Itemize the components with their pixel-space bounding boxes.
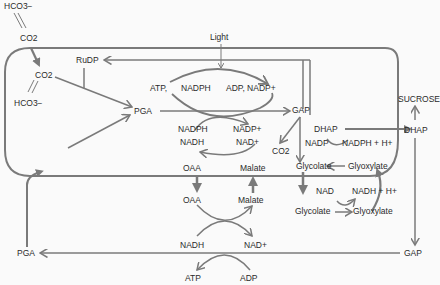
- label-malate-outer: Malate: [238, 196, 264, 205]
- label-gap-inner: GAP: [292, 106, 310, 115]
- label-nadh-mid: NADH: [180, 138, 204, 147]
- label-co2-outer: CO2: [20, 34, 37, 43]
- label-hco3-inner: HCO3−: [14, 99, 43, 108]
- label-atp-bottom: ATP: [185, 274, 201, 283]
- label-nad-mid: NAD+: [236, 138, 259, 147]
- label-glycolate-inner: Glycolate: [296, 162, 331, 171]
- label-nadp-mid: NADP+: [233, 125, 262, 134]
- label-adp-nadp-top: ADP, NADP+: [226, 84, 276, 93]
- label-pga-outer: PGA: [17, 249, 35, 258]
- label-rudp: RuDP: [76, 56, 99, 65]
- label-gap-outer: GAP: [404, 249, 422, 258]
- label-oaa-outer: OAA: [183, 196, 201, 205]
- label-nadph-top: NADPH: [181, 84, 211, 93]
- label-dhap-inner: DHAP: [314, 125, 338, 134]
- label-co2-inner: CO2: [35, 71, 52, 80]
- label-glyoxylate-inner: Glyoxylate: [348, 162, 388, 171]
- label-atp-top: ATP,: [150, 84, 167, 93]
- label-light: Light: [210, 33, 228, 42]
- label-glyoxylate-outer: Glyoxylate: [353, 207, 393, 216]
- label-nad-out: NAD: [316, 187, 334, 196]
- label-sucrose: SUCROSE: [398, 95, 440, 104]
- label-malate-inner: Malate: [240, 164, 266, 173]
- label-pga-inner: PGA: [134, 107, 152, 116]
- label-glycolate-outer: Glycolate: [295, 207, 330, 216]
- label-nadp-glyc: NADP: [305, 139, 329, 148]
- label-nadph-mid: NADPH: [178, 125, 208, 134]
- label-adp-bottom: ADP: [240, 274, 257, 283]
- label-nadh-low: NADH: [180, 241, 204, 250]
- label-nad-low: NAD+: [244, 241, 267, 250]
- label-co2-gap: CO2: [272, 147, 289, 156]
- label-hco3-outer: HCO3−: [4, 2, 33, 11]
- diagram-canvas: HCO3− CO2 CO2 HCO3− RuDP Light ATP, NADP…: [0, 0, 440, 285]
- label-nadph-h-glyc: NADPH + H+: [342, 139, 393, 148]
- label-oaa-inner: OAA: [183, 164, 201, 173]
- label-nadh-h-out: NADH + H+: [352, 187, 397, 196]
- label-dhap-outer: DHAP: [404, 126, 428, 135]
